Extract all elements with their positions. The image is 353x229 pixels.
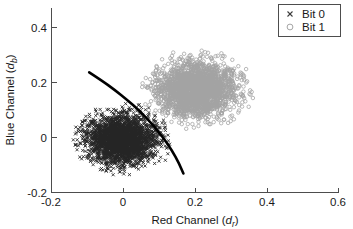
legend[interactable]: Bit 0 Bit 1 <box>279 5 341 37</box>
plot-canvas: -0.2 0 0.2 0.4 0.6 0.4 0.2 0 -0.2 Red Ch… <box>0 0 353 229</box>
y-tick-label-1: 0.2 <box>31 77 47 89</box>
x-tick-label-1: 0 <box>120 196 126 208</box>
x-tick-label-3: 0.4 <box>259 196 276 208</box>
y-tick-label-2: 0 <box>41 132 47 144</box>
y-tick-label-3: -0.2 <box>27 187 47 199</box>
legend-label-bit-0: Bit 0 <box>302 8 325 20</box>
y-tick-label-0: 0.4 <box>31 22 48 34</box>
x-tick-label-2: 0.2 <box>187 196 203 208</box>
x-tick-label-4: 0.6 <box>330 196 346 208</box>
legend-label-bit-1: Bit 1 <box>302 21 325 33</box>
scatter-plot-figure: -0.2 0 0.2 0.4 0.6 0.4 0.2 0 -0.2 Red Ch… <box>0 0 353 229</box>
